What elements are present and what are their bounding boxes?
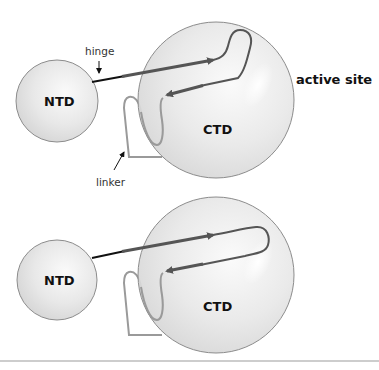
hinge-label: hinge	[85, 45, 114, 57]
linker-pointer-arrow	[114, 152, 124, 170]
hinge-segment	[92, 251, 125, 258]
active-site-label: active site	[296, 72, 372, 87]
linker-label: linker	[96, 176, 126, 188]
ctd-label: CTD	[203, 122, 232, 137]
ctd-label: CTD	[203, 299, 232, 314]
hinge-segment	[92, 76, 125, 82]
ntd-label: NTD	[44, 94, 75, 109]
diagram-canvas: NTD CTD hinge linker active site NTD CTD	[0, 0, 379, 370]
ntd-label: NTD	[44, 273, 75, 288]
bottom-panel: NTD CTD	[17, 197, 294, 353]
top-panel: NTD CTD hinge linker active site	[16, 22, 372, 188]
